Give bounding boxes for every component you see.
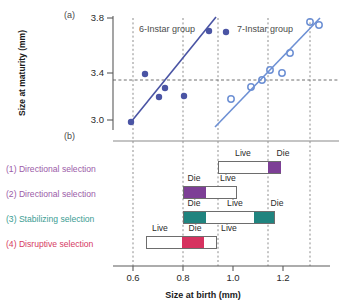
data-point xyxy=(223,29,229,35)
bar-segment-label: Live xyxy=(211,223,247,233)
data-point xyxy=(162,85,168,91)
bar-segment-label: Die xyxy=(262,198,292,208)
bar-segment-label: Die xyxy=(179,198,209,208)
data-point xyxy=(206,28,212,34)
x-tick-label: 0.8 xyxy=(170,272,196,283)
x-tick-label: 1.0 xyxy=(220,272,246,283)
bar-fill-die xyxy=(182,237,204,248)
selection-row-label-3: (3) Stabilizing selection xyxy=(6,214,114,224)
y-axis-ticks xyxy=(107,18,113,120)
bar-segment-label: Die xyxy=(180,223,210,233)
y-tick-label: 3.8 xyxy=(78,12,104,23)
x-tick-label: 1.2 xyxy=(270,272,296,283)
bar-segment-label: Live xyxy=(208,173,248,183)
selection-row-label-4: (4) Disruptive selection xyxy=(6,239,114,249)
series-label-7-instar: 7-Instar group xyxy=(237,24,293,34)
data-point xyxy=(279,70,285,76)
data-point xyxy=(228,96,234,102)
figure-container: (a) (b) Size at maturity (mm) 3.8 3.4 3.… xyxy=(0,0,339,308)
bar-segment-label: Die xyxy=(268,148,298,158)
y-tick-label: 3.0 xyxy=(78,114,104,125)
y-axis-title: Size at maturity (mm) xyxy=(17,18,27,128)
bar-segment-label: Die xyxy=(179,173,209,183)
data-point xyxy=(156,94,162,100)
bar-fill-die xyxy=(268,162,281,173)
bar-segment-label: Live xyxy=(218,148,268,158)
x-tick-label: 0.6 xyxy=(120,272,146,283)
data-point xyxy=(287,50,293,56)
data-point xyxy=(128,119,134,125)
x-axis-ticks xyxy=(133,266,283,271)
selection-bar-4 xyxy=(146,236,217,249)
data-point xyxy=(181,93,187,99)
data-point xyxy=(316,22,322,28)
x-axis-title: Size at birth (mm) xyxy=(128,290,278,300)
selection-row-label-1: (1) Directional selection xyxy=(6,164,114,174)
bar-fill-die xyxy=(184,187,206,198)
panel-b-label: (b) xyxy=(64,131,75,141)
bar-fill-die xyxy=(184,212,206,223)
series-label-6-instar: 6-Instar group xyxy=(139,24,195,34)
series-6-instar-points xyxy=(128,28,229,125)
panel-a-label: (a) xyxy=(64,10,75,20)
bar-segment-label: Live xyxy=(142,223,178,233)
y-tick-label: 3.4 xyxy=(78,67,104,78)
selection-row-label-2: (2) Directional selection xyxy=(6,189,114,199)
data-point xyxy=(142,71,148,77)
bar-segment-label: Live xyxy=(213,198,257,208)
bar-fill-die xyxy=(254,212,274,223)
